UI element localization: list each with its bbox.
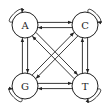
node-a-label: A <box>20 20 29 31</box>
node-a: A <box>12 12 38 38</box>
edge-a-to-t <box>36 32 78 74</box>
edge-g-to-c <box>32 33 74 75</box>
node-c-label: C <box>81 20 89 31</box>
node-g-label: G <box>21 81 29 92</box>
node-t: T <box>72 73 98 99</box>
edge-c-to-g <box>36 36 78 78</box>
transition-diagram: A C G T <box>0 0 109 111</box>
nodes: A C G T <box>12 12 98 99</box>
node-g: G <box>12 73 38 99</box>
node-t-label: T <box>82 81 89 92</box>
node-c: C <box>72 12 98 38</box>
edge-t-to-a <box>32 36 74 78</box>
